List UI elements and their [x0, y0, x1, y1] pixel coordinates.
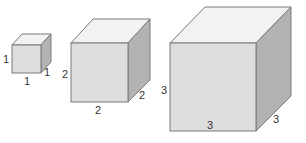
cube-small-front-face [12, 45, 41, 73]
cube-large-height-label: 3 [161, 84, 167, 96]
cube-medium-depth-label: 2 [139, 89, 145, 101]
cube-medium: 2 2 2 [62, 19, 150, 116]
cube-small-depth-label: 1 [44, 66, 50, 78]
cube-large-front-face [170, 43, 256, 131]
cube-small-height-label: 1 [3, 53, 9, 65]
cube-medium-front-face [71, 43, 128, 102]
cube-small-width-label: 1 [24, 75, 30, 87]
cube-large-depth-label: 3 [273, 113, 279, 125]
cubes-diagram: 1 1 1 2 2 2 3 3 3 [0, 0, 306, 143]
cube-small: 1 1 1 [3, 34, 51, 87]
cube-medium-height-label: 2 [62, 68, 68, 80]
cube-large-width-label: 3 [207, 119, 213, 131]
cube-medium-width-label: 2 [95, 104, 101, 116]
cube-large: 3 3 3 [161, 7, 291, 131]
